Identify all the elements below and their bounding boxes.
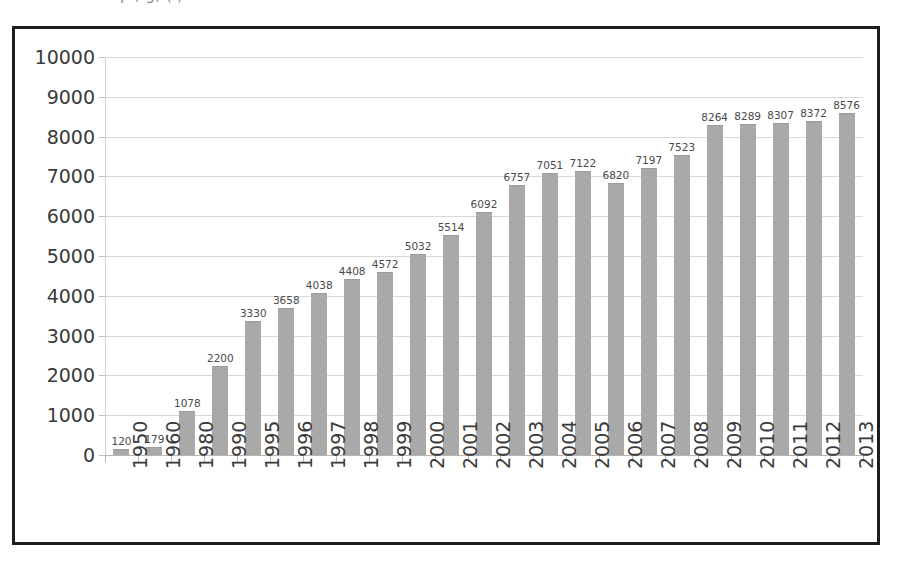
cut-off-caption-strip: p , g, ( ) [0,0,915,16]
bar-slot: 5514 [435,57,468,455]
x-axis-tick-label: 1999 [393,421,415,469]
y-axis-tick-label: 9000 [47,86,95,108]
bar-slot: 5032 [402,57,435,455]
x-axis-tick [105,455,106,462]
bar [839,113,855,455]
bar [707,125,723,455]
bar [509,185,525,455]
x-axis-tick-label: 2013 [855,421,877,469]
bar-slot: 7523 [665,57,698,455]
x-axis-tick-label: 2007 [657,421,679,469]
x-axis-tick-label: 1996 [294,421,316,469]
x-axis-tick-label: 1990 [228,421,250,469]
bar-slot: 2200 [204,57,237,455]
bar-slot: 8576 [830,57,863,455]
x-axis-tick-label: 2010 [756,421,778,469]
bar-slot: 4038 [303,57,336,455]
y-axis-tick-label: 4000 [47,285,95,307]
bar-value-label: 5514 [438,221,465,233]
bar-value-label: 8289 [734,110,761,122]
bar [542,173,558,455]
bar-value-label: 4038 [306,279,333,291]
y-axis-tick-label: 0 [83,444,95,466]
bar-value-label: 2200 [207,352,234,364]
bar-value-label: 8576 [833,99,860,111]
x-axis-tick-label: 2001 [459,421,481,469]
bar-slot: 3658 [270,57,303,455]
bar [476,212,492,455]
x-axis-tick-label: 1998 [360,421,382,469]
bar-slot: 6820 [599,57,632,455]
bar [674,155,690,455]
bar-slot: 120 [105,57,138,455]
x-axis-tick-label: 1997 [327,421,349,469]
bar-value-label: 7197 [635,154,662,166]
x-axis-tick-label: 2006 [624,421,646,469]
bar-value-label: 8307 [767,109,794,121]
y-axis-tick-label: 7000 [47,165,95,187]
x-axis-tick-label: 2000 [426,421,448,469]
bar-slot: 6092 [468,57,501,455]
bar-slot: 1078 [171,57,204,455]
x-axis-tick-label: 1960 [162,421,184,469]
y-axis-tick-label: 6000 [47,205,95,227]
bar-slot: 4572 [369,57,402,455]
bar [575,171,591,455]
x-axis-line [105,455,863,456]
bar-slot: 8264 [698,57,731,455]
x-axis-tick-label: 2002 [492,421,514,469]
y-axis-tick-label: 5000 [47,245,95,267]
bar-slot: 7051 [533,57,566,455]
bar [641,168,657,455]
bar-value-label: 6092 [471,198,498,210]
bar [608,183,624,455]
x-axis-tick-label: 2003 [525,421,547,469]
bar-series: 1201791078220033303658403844084572503255… [105,57,863,455]
x-axis-tick-label: 2005 [591,421,613,469]
x-axis-tick-label: 1995 [261,421,283,469]
bar-slot: 3330 [237,57,270,455]
x-axis-tick-label: 1980 [195,421,217,469]
x-axis-tick-label: 2012 [822,421,844,469]
y-axis-tick-label: 1000 [47,404,95,426]
y-axis-tick-label: 8000 [47,126,95,148]
bar-value-label: 8372 [800,107,827,119]
bar-value-label: 1078 [174,397,201,409]
bar [773,123,789,455]
y-axis-tick-label: 10000 [35,46,95,68]
y-axis-tick-label: 3000 [47,325,95,347]
x-axis-tick-label: 2008 [690,421,712,469]
bar-slot: 8289 [731,57,764,455]
caption-text: p , g, ( ) [120,0,183,4]
bar-value-label: 4408 [339,265,366,277]
bar [806,121,822,455]
bar-slot: 7197 [632,57,665,455]
bar-value-label: 6820 [602,169,629,181]
bar-chart: 0100020003000400050006000700080009000100… [15,29,877,542]
x-axis-tick-label: 2011 [789,421,811,469]
bar-value-label: 3658 [273,294,300,306]
plot-area: 0100020003000400050006000700080009000100… [105,57,863,455]
bar-value-label: 6757 [504,171,531,183]
bar-slot: 6757 [500,57,533,455]
x-axis-tick-label: 1950 [129,421,151,469]
bar-slot: 4408 [336,57,369,455]
bar-value-label: 8264 [701,111,728,123]
x-axis-tick-label: 2009 [723,421,745,469]
x-axis-tick-label: 2004 [558,421,580,469]
bar [740,124,756,455]
bar-value-label: 7122 [569,157,596,169]
bar-value-label: 4572 [372,258,399,270]
bar-slot: 8372 [797,57,830,455]
bar-value-label: 7523 [668,141,695,153]
bar-value-label: 5032 [405,240,432,252]
bar-slot: 179 [138,57,171,455]
bar-slot: 7122 [566,57,599,455]
y-axis-tick-label: 2000 [47,364,95,386]
bar-value-label: 7051 [537,159,564,171]
bar-value-label: 3330 [240,307,267,319]
figure-frame: 0100020003000400050006000700080009000100… [12,26,880,545]
bar-slot: 8307 [764,57,797,455]
